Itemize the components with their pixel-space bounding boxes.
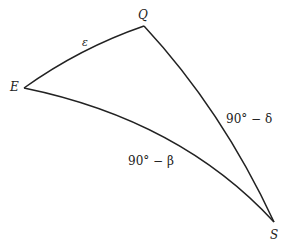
spherical-triangle-diagram: E Q S ε 90° − δ 90° − β bbox=[0, 0, 293, 248]
side-label-e-q: ε bbox=[82, 36, 88, 49]
side-label-e-s: 90° − β bbox=[128, 154, 174, 168]
vertex-label-e: E bbox=[10, 80, 19, 94]
vertex-label-s: S bbox=[270, 228, 278, 242]
vertex-label-q: Q bbox=[138, 8, 148, 22]
side-label-q-s: 90° − δ bbox=[226, 112, 272, 126]
